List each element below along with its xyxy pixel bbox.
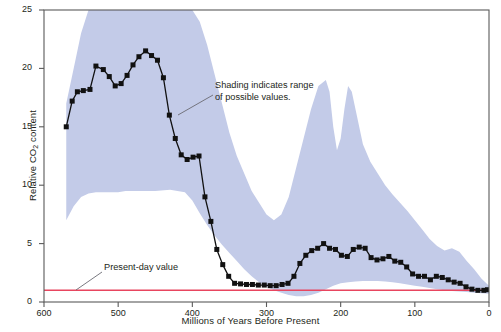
- data-point-marker: [208, 219, 213, 224]
- data-point-marker: [70, 99, 75, 104]
- x-axis-tick-label: 600: [24, 308, 64, 318]
- data-point-marker: [357, 245, 362, 250]
- data-point-marker: [363, 246, 368, 251]
- data-point-marker: [202, 194, 207, 199]
- data-point-marker: [125, 73, 130, 78]
- data-point-marker: [351, 247, 356, 252]
- data-point-marker: [404, 264, 409, 269]
- data-point-marker: [475, 288, 480, 293]
- data-point-marker: [434, 274, 439, 279]
- data-point-marker: [226, 274, 231, 279]
- data-point-marker: [173, 136, 178, 141]
- data-point-marker: [75, 89, 80, 94]
- data-point-marker: [161, 75, 166, 80]
- data-point-marker: [185, 157, 190, 162]
- x-axis-tick-label: 300: [247, 308, 287, 318]
- data-point-marker: [191, 155, 196, 160]
- data-point-marker: [464, 284, 469, 289]
- data-point-marker: [256, 283, 261, 288]
- chart-figure: Relative CO2 content Millions of Years B…: [0, 0, 501, 332]
- data-point-marker: [244, 282, 249, 287]
- data-point-marker: [81, 88, 86, 93]
- data-point-marker: [214, 247, 219, 252]
- data-point-marker: [101, 67, 106, 72]
- data-point-marker: [386, 254, 391, 259]
- data-point-marker: [136, 54, 141, 59]
- annotation-shading-range: Shading indicates range of possible valu…: [215, 80, 314, 103]
- data-point-marker: [143, 48, 148, 53]
- y-axis-tick-label: 15: [6, 121, 32, 131]
- x-axis-ticks: [44, 302, 489, 307]
- y-axis-tick-label: 25: [6, 4, 32, 14]
- data-point-marker: [232, 281, 237, 286]
- data-point-marker: [238, 281, 243, 286]
- data-point-marker: [286, 281, 291, 286]
- data-point-marker: [262, 283, 267, 288]
- y-axis-tick-label: 20: [6, 62, 32, 72]
- y-axis-tick-label: 0: [6, 296, 32, 306]
- data-point-marker: [309, 248, 314, 253]
- data-point-marker: [369, 255, 374, 260]
- data-point-marker: [327, 246, 332, 251]
- data-point-marker: [440, 275, 445, 280]
- data-point-marker: [179, 152, 184, 157]
- x-axis-tick-label: 400: [172, 308, 212, 318]
- data-point-marker: [250, 282, 255, 287]
- data-point-marker: [345, 254, 350, 259]
- data-point-marker: [458, 281, 463, 286]
- data-point-marker: [64, 124, 69, 129]
- data-point-marker: [107, 74, 112, 79]
- data-point-marker: [398, 260, 403, 265]
- data-point-marker: [446, 277, 451, 282]
- data-point-marker: [149, 53, 154, 58]
- data-point-marker: [392, 259, 397, 264]
- band-range: [66, 10, 489, 296]
- data-point-marker: [321, 241, 326, 246]
- x-axis-tick-label: 100: [395, 308, 435, 318]
- data-point-marker: [93, 64, 98, 69]
- data-point-marker: [119, 81, 124, 86]
- data-point-marker: [113, 83, 118, 88]
- data-point-marker: [416, 274, 421, 279]
- y-axis-tick-label: 10: [6, 179, 32, 189]
- data-point-marker: [220, 262, 225, 267]
- y-axis-ticks: [39, 10, 44, 302]
- x-axis-tick-label: 0: [469, 308, 501, 318]
- data-point-marker: [297, 261, 302, 266]
- data-point-marker: [410, 271, 415, 276]
- data-point-marker: [131, 62, 136, 67]
- data-point-marker: [422, 274, 427, 279]
- data-point-marker: [315, 246, 320, 251]
- data-point-marker: [428, 277, 433, 282]
- data-point-marker: [155, 58, 160, 63]
- annotation-present-day-value: Present-day value: [104, 262, 178, 274]
- y-axis-tick-label: 5: [6, 238, 32, 248]
- data-point-marker: [333, 247, 338, 252]
- data-point-marker: [167, 113, 172, 118]
- data-point-marker: [280, 282, 285, 287]
- data-point-marker: [339, 253, 344, 258]
- data-point-marker: [303, 253, 308, 258]
- data-point-marker: [87, 87, 92, 92]
- data-point-marker: [291, 274, 296, 279]
- chart-plot-area: [0, 0, 501, 332]
- data-point-marker: [268, 283, 273, 288]
- data-point-marker: [375, 257, 380, 262]
- data-point-marker: [197, 154, 202, 159]
- data-point-marker: [274, 283, 279, 288]
- x-axis-tick-label: 200: [321, 308, 361, 318]
- x-axis-tick-label: 500: [98, 308, 138, 318]
- data-point-marker: [452, 280, 457, 285]
- data-point-marker: [469, 287, 474, 292]
- data-point-marker: [380, 256, 385, 261]
